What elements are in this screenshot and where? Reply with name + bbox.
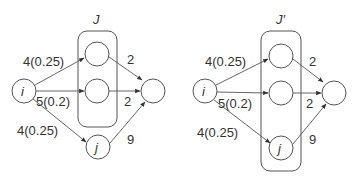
node-bottom xyxy=(86,135,110,159)
edge-to-middle xyxy=(217,92,268,93)
node-source xyxy=(12,79,36,103)
edge-label-bottom-to-sink: 9 xyxy=(309,132,316,147)
diagram-left: J i j 4(0.25) 5(0.2) 4(0.25) 2 2 9 xyxy=(12,12,165,159)
node-sink xyxy=(322,81,346,105)
edge-label-to-top: 4(0.25) xyxy=(23,54,64,69)
edge-top-to-sink xyxy=(109,57,142,80)
node-middle xyxy=(85,79,109,103)
edge-label-to-top: 4(0.25) xyxy=(205,54,246,69)
set-label-J: J xyxy=(92,12,100,27)
node-source xyxy=(193,79,217,103)
edge-label-top-to-sink: 2 xyxy=(309,54,316,69)
edge-label-to-bottom: 4(0.25) xyxy=(197,125,238,140)
set-label-J-prime: J′ xyxy=(275,12,286,27)
edge-label-bottom-to-sink: 9 xyxy=(127,132,134,147)
edge-top-to-sink xyxy=(293,59,323,82)
node-top xyxy=(269,44,293,68)
edge-label-to-middle: 5(0.2) xyxy=(218,96,252,111)
diagram-right: J′ i j 4(0.25) 5(0.2) 4(0.25) 2 2 9 xyxy=(193,12,346,171)
node-top xyxy=(85,42,109,66)
node-bottom xyxy=(269,136,293,160)
edge-label-top-to-sink: 2 xyxy=(127,52,134,67)
edge-label-middle-to-sink: 2 xyxy=(306,96,313,111)
edge-label-to-middle: 5(0.2) xyxy=(36,94,70,109)
edge-label-to-bottom: 4(0.25) xyxy=(17,123,58,138)
node-sink xyxy=(141,79,165,103)
node-middle xyxy=(269,81,293,105)
edge-label-middle-to-sink: 2 xyxy=(124,94,131,109)
